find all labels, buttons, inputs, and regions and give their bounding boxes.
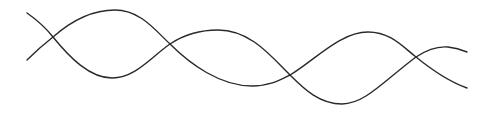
wave-curve-b	[27, 10, 467, 88]
wave-diagram	[0, 0, 493, 113]
wave-curve-a	[27, 13, 467, 104]
wave-lines-graphic	[0, 0, 493, 113]
